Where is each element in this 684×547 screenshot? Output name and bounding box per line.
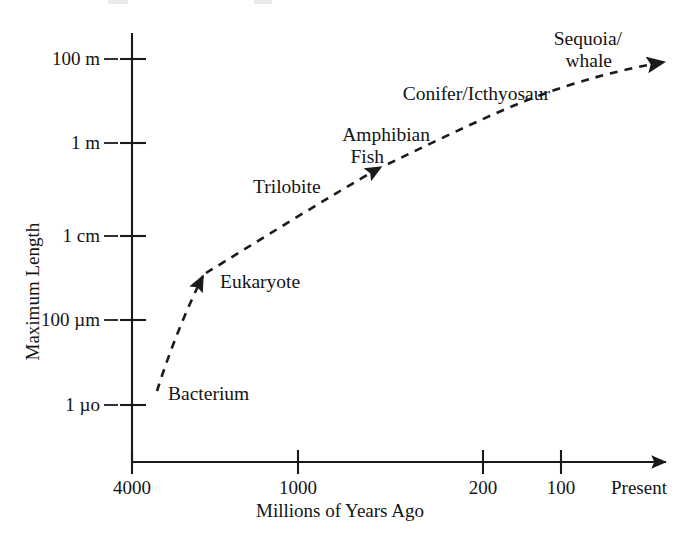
y-tick-label-1um: 1 µo: [0, 394, 100, 415]
y-tick-label-100um: 100 µm: [0, 309, 100, 330]
annotation-eukaryote: Eukaryote: [220, 271, 300, 293]
data-curve-segment-fish-to-present: [388, 62, 665, 164]
y-tick-label-1m: 1 m: [0, 132, 100, 153]
x-tick-label-present: Present: [594, 477, 684, 498]
annotation-trilobite: Trilobite: [253, 176, 321, 198]
x-tick-label-100: 100: [524, 477, 598, 498]
annotation-amphibian: Amphibian: [240, 124, 430, 146]
y-axis-title: Maximum Length: [22, 212, 43, 372]
data-curve-segment-bacterium-to-eukaryote: [157, 276, 203, 391]
y-tick-label-1cm: 1 cm: [0, 225, 100, 246]
annotation-sequoia: Sequoia/: [440, 28, 622, 50]
annotation-whale: whale: [440, 50, 612, 72]
x-tick-label-200: 200: [446, 477, 520, 498]
x-axis-title: Millions of Years Ago: [200, 500, 480, 521]
x-tick-label-4000: 4000: [92, 477, 172, 498]
evolution-max-length-chart: 100 m 1 m 1 cm 100 µm 1 µo Maximum Lengt…: [0, 0, 684, 547]
x-tick-label-1000: 1000: [258, 477, 338, 498]
annotation-fish: Fish: [240, 146, 384, 168]
annotation-bacterium: Bacterium: [168, 383, 249, 405]
annotation-conifer-icthyosaur: Conifer/Icthyosaur: [330, 83, 550, 105]
y-tick-label-100m: 100 m: [0, 48, 100, 69]
